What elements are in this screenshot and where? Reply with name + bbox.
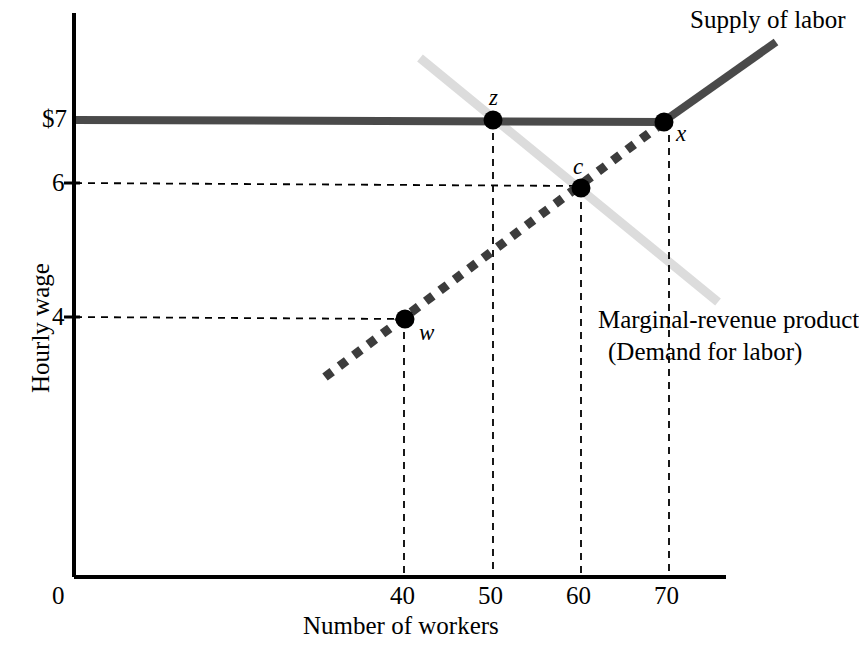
marker-point-c[interactable] [572, 179, 591, 198]
x-tick-label-0: 0 [52, 583, 65, 608]
x-tick-label-60: 60 [566, 583, 591, 608]
demand-curve-label-line1: Marginal-revenue product [598, 307, 859, 332]
x-tick-label-50: 50 [478, 583, 503, 608]
x-tick-label-70: 70 [654, 583, 679, 608]
marker-point-z[interactable] [484, 111, 503, 130]
point-label-w: w [419, 321, 434, 344]
y-tick-label-6: 6 [52, 170, 65, 195]
supply-curve-label: Supply of labor [690, 7, 846, 32]
x-tick-label-40: 40 [390, 583, 415, 608]
supply-rising-segment [660, 42, 776, 124]
marker-point-x[interactable] [655, 113, 674, 132]
point-label-z: z [489, 86, 498, 109]
demand-curve-label-line2: (Demand for labor) [608, 339, 802, 364]
point-label-c: c [573, 155, 583, 178]
axes-group [64, 13, 726, 577]
y-axis-title: Hourly wage [28, 263, 53, 393]
guide-horizontal-4 [75, 317, 404, 319]
demand-curve-line [420, 58, 718, 302]
y-tick-label-7: $7 [42, 106, 67, 131]
x-axis-title: Number of workers [303, 613, 499, 638]
guide-horizontal-6 [75, 183, 581, 186]
supply-horizontal-segment [74, 120, 666, 122]
point-label-x: x [676, 122, 686, 145]
marker-point-w[interactable] [396, 310, 415, 329]
